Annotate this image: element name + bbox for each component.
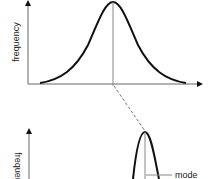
- diagram-canvas: frequency frequency mode: [0, 0, 222, 179]
- mode-label: mode: [175, 170, 198, 179]
- bottom-y-axis-label: frequency: [13, 152, 23, 179]
- top-y-axis-label: frequency: [11, 22, 21, 62]
- dashed-connector: [114, 86, 145, 131]
- bottom-panel: frequency mode: [13, 131, 198, 179]
- top-panel: frequency: [11, 2, 200, 86]
- bottom-narrow-normal-curve: [133, 132, 159, 179]
